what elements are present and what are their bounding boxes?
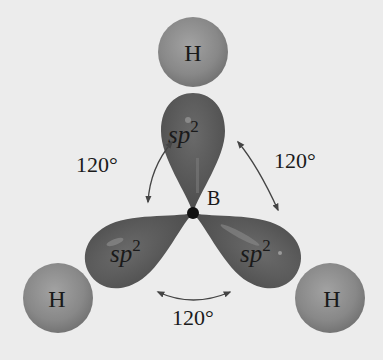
bh3-sp2-diagram: H H H sp2 sp2 sp2 B 120° 120° 120° (0, 0, 383, 360)
hydrogen-label: H (323, 286, 340, 312)
hydrogen-label: H (184, 40, 201, 66)
hydrogen-label: H (48, 286, 65, 312)
angle-arc-upper-right (238, 142, 278, 210)
orbital-lobe-bottom-left (73, 185, 209, 300)
central-atom-label: B (207, 187, 220, 209)
angle-label-upper-left: 120° (76, 152, 118, 177)
angle-label-upper-right: 120° (274, 148, 316, 173)
hydrogen-top: H (158, 17, 228, 87)
hydrogen-bottom-right: H (295, 263, 365, 333)
angle-arc-bottom (158, 292, 230, 300)
central-atom-dot (187, 207, 199, 219)
angle-label-bottom: 120° (172, 305, 214, 330)
hydrogen-bottom-left: H (23, 263, 93, 333)
